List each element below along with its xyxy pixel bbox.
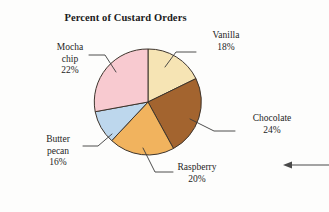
pie-label-raspberry: Raspberry 20% <box>163 162 231 185</box>
pie-slice-mocha-chip <box>94 49 148 112</box>
pie-chart-figure: Percent of Custard Orders Vanilla 18% Ch… <box>0 0 329 212</box>
pie-label-butter-pecan: Butter pecan 16% <box>30 134 86 169</box>
pie-label-vanilla: Vanilla 18% <box>198 30 254 53</box>
pie-label-chocolate: Chocolate 24% <box>236 113 308 136</box>
pie-label-mocha-chip: Mocha chip 22% <box>42 42 98 77</box>
left-pointing-arrow <box>283 162 329 169</box>
